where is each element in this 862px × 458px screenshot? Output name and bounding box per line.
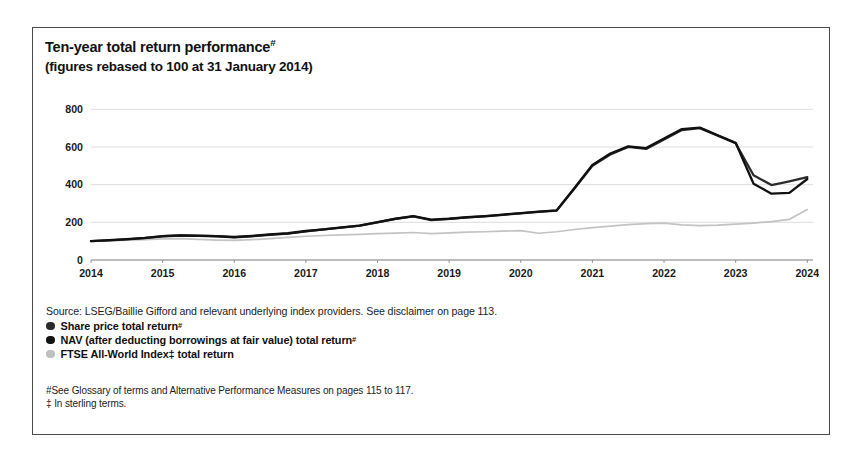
legend-item: NAV (after deducting borrowings at fair … xyxy=(46,334,806,346)
legend-marker-dot xyxy=(46,336,55,345)
chart-title-superscript: # xyxy=(270,37,275,48)
chart-legend-block: Source: LSEG/Baillie Gifford and relevan… xyxy=(46,305,806,362)
chart-subtitle: (figures rebased to 100 at 31 January 20… xyxy=(45,59,313,74)
line-chart-svg: 0200400600800 20142015201620172018201920… xyxy=(45,90,819,290)
chart-source-note: Source: LSEG/Baillie Gifford and relevan… xyxy=(46,305,806,317)
chart-figure-panel: Ten-year total return performance# (figu… xyxy=(32,27,830,435)
x-axis-tick-label: 2020 xyxy=(509,267,533,279)
y-axis-tick-label: 800 xyxy=(65,103,83,115)
chart-y-axis-labels: 0200400600800 xyxy=(65,103,83,266)
chart-plot-area: 0200400600800 20142015201620172018201920… xyxy=(45,90,819,290)
footnote-line: ‡ In sterling terms. xyxy=(46,398,806,409)
x-axis-tick-label: 2018 xyxy=(366,267,390,279)
legend-item-label: FTSE All-World Index‡ total return xyxy=(61,348,234,360)
chart-title: Ten-year total return performance# xyxy=(45,39,275,55)
legend-item: Share price total return# xyxy=(46,320,806,332)
legend-item-label: Share price total return xyxy=(61,320,178,332)
x-axis-tick-label: 2024 xyxy=(795,267,819,279)
x-axis-tick-label: 2014 xyxy=(79,267,103,279)
x-axis-tick-label: 2022 xyxy=(652,267,676,279)
chart-legend-list: Share price total return#NAV (after dedu… xyxy=(46,320,806,360)
legend-item-label: NAV (after deducting borrowings at fair … xyxy=(61,334,353,346)
x-axis-tick-label: 2017 xyxy=(294,267,318,279)
chart-gridlines xyxy=(91,109,813,260)
y-axis-tick-label: 400 xyxy=(65,178,83,190)
x-axis-tick-label: 2019 xyxy=(437,267,461,279)
y-axis-tick-label: 0 xyxy=(77,254,83,266)
legend-item: FTSE All-World Index‡ total return xyxy=(46,348,806,360)
chart-x-axis-labels: 2014201520162017201820192020202120222023… xyxy=(79,260,819,279)
y-axis-tick-label: 600 xyxy=(65,141,83,153)
footnote-line: #See Glossary of terms and Alternative P… xyxy=(46,385,806,396)
x-axis-tick-label: 2015 xyxy=(151,267,175,279)
legend-marker-dot xyxy=(46,322,55,331)
x-axis-tick-label: 2021 xyxy=(581,267,605,279)
chart-footnotes: #See Glossary of terms and Alternative P… xyxy=(46,385,806,411)
x-axis-tick-label: 2016 xyxy=(222,267,246,279)
y-axis-tick-label: 200 xyxy=(65,216,83,228)
legend-marker-dot xyxy=(46,350,55,359)
chart-title-text: Ten-year total return performance xyxy=(45,39,270,55)
x-axis-tick-label: 2023 xyxy=(724,267,748,279)
